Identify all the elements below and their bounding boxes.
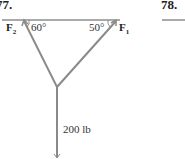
angle-arc-50 xyxy=(108,20,110,27)
force-label-f1: F1 xyxy=(119,21,129,36)
force-label-f2: F2 xyxy=(6,21,16,36)
load-label: 200 lb xyxy=(63,123,91,135)
member-f1 xyxy=(57,21,116,87)
angle-label-60: 60° xyxy=(31,21,46,33)
angle-label-50: 50° xyxy=(89,21,104,33)
